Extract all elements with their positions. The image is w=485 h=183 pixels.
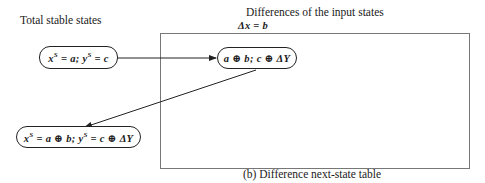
x-sup: S (29, 131, 33, 139)
y-value: = c ⊕ ΔY (91, 133, 134, 144)
x-value: = a; (61, 53, 82, 64)
difference-entry-text: a ⊕ b; c ⊕ ΔY (224, 52, 290, 64)
y-value: = c (95, 53, 109, 64)
current-state-node: xS = a; yS = c (39, 46, 118, 69)
y-sup: S (87, 51, 91, 59)
arrow-difference-to-next (85, 70, 256, 127)
next-state-node: xS = a ⊕ b; yS = c ⊕ ΔY (16, 126, 141, 148)
figure-caption: (b) Difference next-state table (243, 168, 381, 180)
connector-arrows (0, 0, 485, 183)
x-value: = a ⊕ b; (36, 133, 78, 144)
y-sup: S (83, 131, 87, 139)
difference-entry-node: a ⊕ b; c ⊕ ΔY (217, 47, 297, 69)
x-sup: S (54, 51, 58, 59)
